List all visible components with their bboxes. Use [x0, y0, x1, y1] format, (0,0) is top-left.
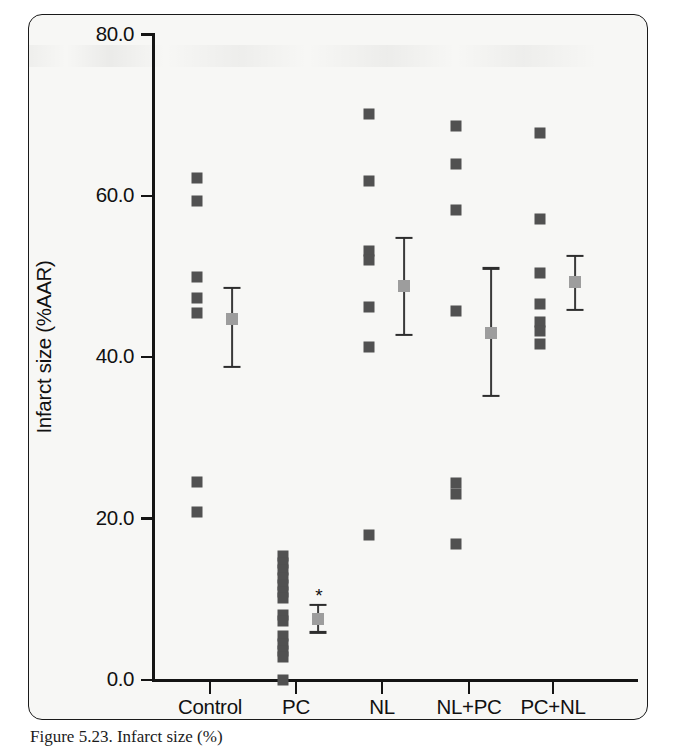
figure-caption: Figure 5.23. Infarct size (%): [30, 726, 670, 752]
scan-noise-band: [29, 45, 647, 67]
figure-panel: [28, 14, 648, 720]
